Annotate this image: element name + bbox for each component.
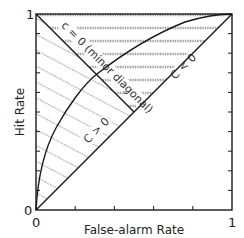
x-max-label: 1	[228, 215, 236, 230]
roc-chart: c = 0 (minor diagonal) C < 0 C > 0	[0, 0, 244, 238]
x-axis-title: False-alarm Rate	[84, 223, 184, 237]
y-axis-title: Hit Rate	[13, 88, 27, 136]
y-max-label: 1	[26, 7, 34, 22]
x-min-label: 0	[32, 215, 40, 230]
